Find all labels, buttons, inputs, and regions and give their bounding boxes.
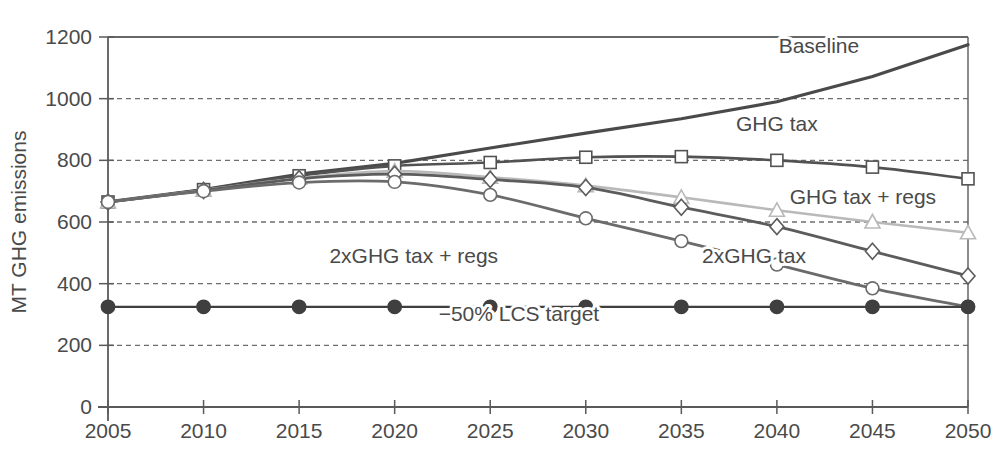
data-marker-square bbox=[675, 151, 687, 163]
diamond-marker bbox=[961, 268, 975, 284]
series-layer bbox=[101, 45, 976, 314]
circle-marker bbox=[102, 196, 115, 209]
square-marker bbox=[866, 161, 878, 173]
data-marker-circle bbox=[197, 185, 210, 198]
filled-circle-marker bbox=[197, 300, 210, 313]
data-marker-filled-circle bbox=[293, 300, 306, 313]
series-label: 2xGHG tax bbox=[702, 244, 806, 267]
x-tick-label: 2010 bbox=[180, 419, 227, 442]
circle-marker bbox=[675, 235, 688, 248]
data-marker-square bbox=[962, 173, 974, 185]
data-marker-filled-circle bbox=[197, 300, 210, 313]
filled-circle-marker bbox=[675, 300, 688, 313]
data-marker-filled-circle bbox=[866, 300, 879, 313]
y-tick-label: 600 bbox=[57, 210, 92, 233]
y-axis: 020040060080010001200 bbox=[45, 25, 114, 418]
data-marker-filled-circle bbox=[675, 300, 688, 313]
filled-circle-marker bbox=[866, 300, 879, 313]
filled-circle-marker bbox=[388, 300, 401, 313]
data-marker-square bbox=[484, 156, 496, 168]
data-marker-filled-circle bbox=[101, 300, 114, 313]
x-tick-label: 2030 bbox=[562, 419, 609, 442]
data-marker-filled-circle bbox=[770, 300, 783, 313]
diamond-marker bbox=[770, 219, 784, 235]
x-tick-label: 2050 bbox=[945, 419, 992, 442]
data-marker-circle bbox=[388, 176, 401, 189]
y-tick-label: 800 bbox=[57, 148, 92, 171]
circle-marker bbox=[197, 185, 210, 198]
data-marker-square bbox=[866, 161, 878, 173]
circle-marker bbox=[579, 212, 592, 225]
data-marker-circle bbox=[102, 196, 115, 209]
diamond-marker bbox=[483, 171, 497, 187]
y-axis-title: MT GHG emissions bbox=[7, 131, 30, 314]
series-label: −50% LCS target bbox=[439, 302, 600, 325]
square-marker bbox=[675, 151, 687, 163]
filled-circle-marker bbox=[961, 300, 974, 313]
series-label: 2xGHG tax + regs bbox=[329, 244, 498, 267]
circle-marker bbox=[293, 176, 306, 189]
y-tick-label: 0 bbox=[80, 395, 92, 418]
filled-circle-marker bbox=[770, 300, 783, 313]
data-marker-square bbox=[771, 154, 783, 166]
x-tick-label: 2020 bbox=[371, 419, 418, 442]
square-marker bbox=[580, 151, 592, 163]
data-marker-square bbox=[580, 151, 592, 163]
data-marker-diamond bbox=[483, 171, 497, 187]
diamond-marker bbox=[579, 179, 593, 195]
circle-marker bbox=[484, 188, 497, 201]
chart-canvas: 0200400600800100012002005201020152020202… bbox=[0, 0, 1006, 469]
data-marker-diamond bbox=[579, 179, 593, 195]
data-marker-diamond bbox=[770, 219, 784, 235]
data-marker-diamond bbox=[865, 243, 879, 259]
series-line bbox=[108, 45, 968, 202]
data-marker-circle bbox=[866, 282, 879, 295]
series-label: Baseline bbox=[779, 34, 860, 57]
x-tick-label: 2025 bbox=[467, 419, 514, 442]
circle-marker bbox=[388, 176, 401, 189]
data-marker-circle bbox=[484, 188, 497, 201]
series-label: GHG tax + regs bbox=[790, 185, 936, 208]
y-tick-label: 1200 bbox=[45, 25, 92, 48]
plot-frame bbox=[98, 37, 968, 421]
data-marker-circle bbox=[293, 176, 306, 189]
data-marker-circle bbox=[579, 212, 592, 225]
x-tick-label: 2040 bbox=[754, 419, 801, 442]
square-marker bbox=[962, 173, 974, 185]
y-tick-label: 200 bbox=[57, 333, 92, 356]
series-baseline bbox=[108, 45, 968, 202]
y-tick-label: 1000 bbox=[45, 87, 92, 110]
y-tick-label: 400 bbox=[57, 272, 92, 295]
data-marker-diamond bbox=[961, 268, 975, 284]
filled-circle-marker bbox=[101, 300, 114, 313]
series-label: GHG tax bbox=[736, 112, 818, 135]
square-marker bbox=[771, 154, 783, 166]
data-marker-filled-circle bbox=[961, 300, 974, 313]
ghg-emissions-line-chart: 0200400600800100012002005201020152020202… bbox=[0, 0, 1006, 469]
diamond-marker bbox=[865, 243, 879, 259]
x-tick-label: 2035 bbox=[658, 419, 705, 442]
x-tick-label: 2005 bbox=[85, 419, 132, 442]
data-marker-circle bbox=[675, 235, 688, 248]
filled-circle-marker bbox=[293, 300, 306, 313]
x-tick-label: 2045 bbox=[849, 419, 896, 442]
x-tick-label: 2015 bbox=[276, 419, 323, 442]
data-marker-filled-circle bbox=[388, 300, 401, 313]
square-marker bbox=[484, 156, 496, 168]
circle-marker bbox=[866, 282, 879, 295]
